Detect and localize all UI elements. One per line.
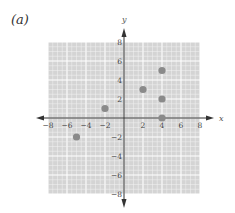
y-tick-label: −6 [111, 171, 122, 180]
data-point [101, 105, 108, 112]
y-tick-label: 2 [117, 95, 122, 104]
x-axis-left-arrow-icon [36, 116, 44, 121]
data-point [158, 114, 165, 121]
data-point [158, 95, 165, 102]
y-tick-label: −8 [111, 190, 122, 199]
x-axis-label: x [219, 114, 224, 123]
scatter-plot: xy −8−6−4−224688642−2−4−6−8 [0, 0, 235, 213]
y-tick-label: −2 [111, 133, 122, 142]
y-tick-label: 4 [117, 76, 122, 85]
y-axis-down-arrow-icon [122, 199, 127, 208]
x-tick-label: 8 [198, 121, 203, 130]
x-tick-label: 2 [141, 121, 146, 130]
x-tick-label: −2 [99, 121, 110, 130]
x-tick-label: 6 [179, 121, 184, 130]
x-tick-label: −8 [42, 121, 53, 130]
y-tick-label: 6 [117, 57, 122, 66]
x-tick-label: −6 [61, 121, 72, 130]
data-point [139, 86, 146, 93]
x-axis-right-arrow-icon [206, 116, 214, 121]
data-point [73, 133, 80, 140]
y-tick-label: −4 [111, 152, 122, 161]
x-tick-label: 4 [160, 121, 165, 130]
data-point [158, 67, 165, 74]
y-tick-label: 8 [117, 38, 122, 47]
y-axis-label: y [121, 15, 127, 24]
y-axis-up-arrow-icon [122, 28, 127, 37]
x-tick-label: −4 [80, 121, 91, 130]
